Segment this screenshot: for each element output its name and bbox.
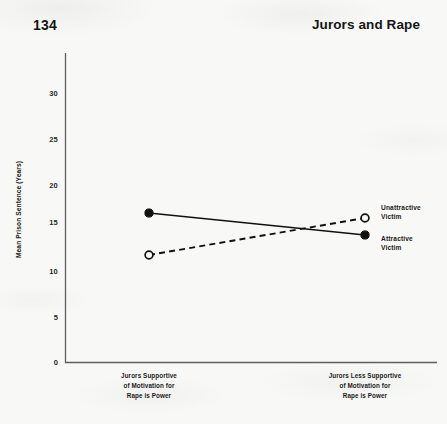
series-label-unattractive-victim: Unattractive Victim — [381, 203, 421, 222]
data-point-unattractive-supportive — [145, 251, 153, 259]
plot-area — [0, 0, 447, 424]
y-axis-title: Mean Prison Sentence (Years) — [15, 145, 22, 275]
ytick-label-5: 5 — [36, 313, 58, 322]
data-point-unattractive-less-supportive — [361, 214, 369, 222]
ytick-label-15: 15 — [36, 218, 58, 227]
ytick-label-20: 20 — [36, 181, 58, 190]
data-point-attractive-less-supportive — [361, 231, 369, 239]
ytick-label-30: 30 — [36, 89, 58, 98]
data-point-attractive-supportive — [145, 209, 153, 217]
ytick-label-0: 0 — [36, 358, 58, 367]
series-label-attractive-victim: Attractive Victim — [381, 234, 413, 253]
xtick-label-less-supportive: Jurors Less Supportive of Motivation for… — [305, 371, 425, 402]
ytick-label-10: 10 — [36, 267, 58, 276]
xtick-label-supportive: Jurors Supportive of Motivation for Rape… — [89, 371, 209, 402]
figure-jurors-sentence-chart: 30 25 20 15 10 5 0 Mean Prison Sentence … — [0, 0, 447, 424]
ytick-label-25: 25 — [36, 135, 58, 144]
